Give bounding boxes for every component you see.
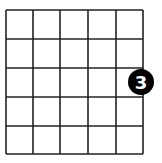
- grid-lines: [6, 10, 143, 154]
- black-stone: 3: [128, 69, 154, 95]
- go-board-diagram: 3: [0, 0, 162, 163]
- stone-move-number: 3: [135, 72, 148, 93]
